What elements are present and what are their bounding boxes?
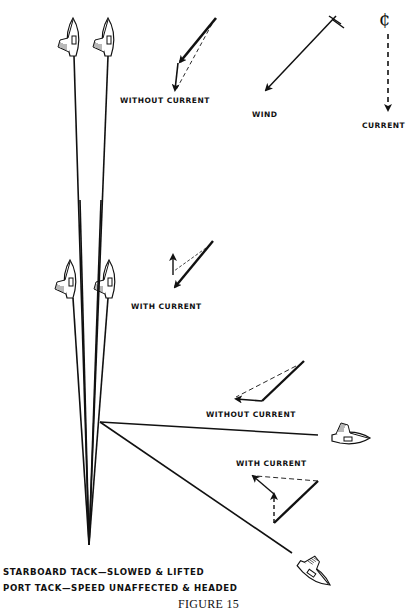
starboard-tack-boats [55, 18, 115, 298]
label-port-with-current: WITH CURRENT [236, 459, 307, 468]
wind-arrow-icon [266, 16, 344, 90]
label-port-without-current: WITHOUT CURRENT [206, 410, 296, 419]
label-starboard-without-current: WITHOUT CURRENT [120, 96, 210, 105]
vector-port-with-current [253, 476, 318, 523]
boat-icon [296, 551, 339, 590]
port-tack-boats [296, 423, 370, 590]
vector-port-without-current [236, 361, 304, 401]
boat-icon [55, 260, 76, 298]
figure-title: FIGURE 15 [178, 597, 239, 612]
caption-line-port: PORT TACK—SPEED UNAFFECTED & HEADED [3, 583, 237, 593]
vector-starboard-without-current [175, 18, 216, 90]
boat-icon [58, 18, 79, 56]
boat-icon [332, 423, 370, 444]
label-current: CURRENT [362, 121, 405, 130]
caption-line-starboard: STARBOARD TACK—SLOWED & LIFTED [3, 567, 204, 577]
sailing-current-diagram [0, 0, 415, 613]
label-wind: WIND [252, 110, 278, 119]
label-starboard-with-current: WITH CURRENT [131, 302, 202, 311]
current-symbol-icon: ¢ [379, 8, 391, 29]
vector-starboard-with-current [173, 241, 213, 287]
boat-icon [93, 18, 114, 56]
